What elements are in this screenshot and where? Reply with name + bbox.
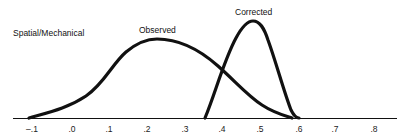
x-tick-label: .5 xyxy=(256,124,263,134)
observed-curve xyxy=(29,39,292,118)
x-tick-label: .7 xyxy=(331,124,338,134)
chart-plot-area xyxy=(0,0,409,140)
corrected-curve xyxy=(205,21,299,118)
x-tick-label: .1 xyxy=(105,124,112,134)
corrected-label: Corrected xyxy=(235,7,272,17)
x-tick-label: .6 xyxy=(295,124,302,134)
observed-label: Observed xyxy=(139,25,176,35)
x-tick-label: .4 xyxy=(218,124,225,134)
x-tick-label: –.1 xyxy=(26,124,38,134)
category-label: Spatial/Mechanical xyxy=(13,28,84,38)
x-tick-label: .2 xyxy=(143,124,150,134)
x-tick-label: .8 xyxy=(370,124,377,134)
x-tick-label: .0 xyxy=(68,124,75,134)
distribution-chart: Spatial/Mechanical Observed Corrected –.… xyxy=(0,0,409,140)
x-tick-label: .3 xyxy=(181,124,188,134)
